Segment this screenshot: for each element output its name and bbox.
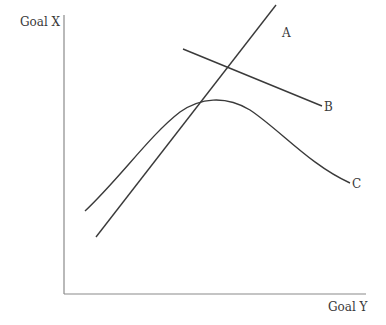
x-axis-label: Goal Y <box>328 300 368 314</box>
diagram-canvas <box>0 0 386 325</box>
y-axis-label: Goal X <box>20 15 60 29</box>
line-b-label: B <box>324 100 333 114</box>
line-a-label: A <box>282 26 291 40</box>
line-c-label: C <box>352 177 361 191</box>
line-a <box>96 5 276 237</box>
curve-c <box>85 100 350 211</box>
